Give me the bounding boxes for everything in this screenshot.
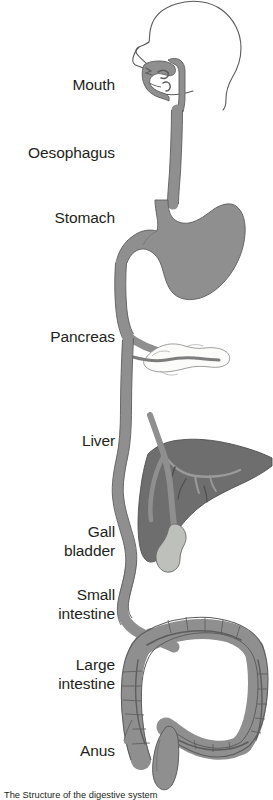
label-small-intestine-line-0: Small — [58, 585, 115, 604]
figure-caption: The Structure of the digestive system — [4, 789, 157, 800]
label-mouth-line-0: Mouth — [72, 75, 115, 94]
stomach — [116, 200, 245, 300]
label-anus: Anus — [80, 741, 115, 760]
label-stomach-line-0: Stomach — [55, 208, 115, 227]
label-liver-line-0: Liver — [82, 431, 115, 450]
label-oesophagus: Oesophagus — [28, 143, 115, 162]
label-oesophagus-line-0: Oesophagus — [28, 143, 115, 162]
large-intestine — [121, 617, 268, 760]
label-small-intestine: Small intestine — [58, 585, 115, 623]
label-stomach: Stomach — [55, 208, 115, 227]
digestive-system-illustration — [0, 0, 273, 800]
head-outline — [133, 1, 241, 110]
label-large-intestine: Large intestine — [58, 655, 115, 693]
digestive-system-figure: Mouth Oesophagus Stomach Pancreas Liver … — [0, 0, 273, 800]
label-large-intestine-line-1: intestine — [58, 674, 115, 693]
liver — [138, 439, 272, 562]
label-large-intestine-line-0: Large — [58, 655, 115, 674]
oesophagus-tube — [168, 110, 183, 204]
label-pancreas-line-0: Pancreas — [50, 327, 115, 346]
label-gall-bladder-line-0: Gall — [64, 522, 115, 541]
rectum-and-anus — [153, 726, 179, 790]
label-liver: Liver — [82, 431, 115, 450]
label-pancreas: Pancreas — [50, 327, 115, 346]
label-mouth: Mouth — [72, 75, 115, 94]
label-gall-bladder: Gall bladder — [64, 522, 115, 560]
label-gall-bladder-line-1: bladder — [64, 541, 115, 560]
label-anus-line-0: Anus — [80, 741, 115, 760]
label-small-intestine-line-1: intestine — [58, 604, 115, 623]
mouth-and-pharynx — [142, 59, 185, 113]
